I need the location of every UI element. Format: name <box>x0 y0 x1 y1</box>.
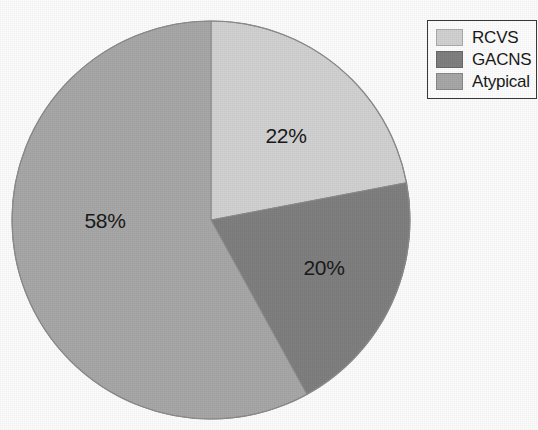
legend-label-rcvs: RCVS <box>472 29 518 46</box>
legend-item-atypical[interactable]: Atypical <box>436 71 536 92</box>
chart-legend: RCVS GACNS Atypical <box>427 20 537 99</box>
slice-label-gacns: 20% <box>303 256 344 280</box>
figure-canvas: 22% 20% 58% RCVS GACNS Atypical <box>0 0 538 430</box>
slice-label-atypical: 58% <box>84 209 125 233</box>
pie-slices <box>12 21 410 419</box>
legend-item-rcvs[interactable]: RCVS <box>436 27 536 48</box>
legend-label-gacns: GACNS <box>472 51 531 68</box>
legend-item-gacns[interactable]: GACNS <box>436 49 536 70</box>
legend-swatch-gacns <box>436 51 463 68</box>
slice-label-rcvs: 22% <box>265 124 306 148</box>
legend-label-atypical: Atypical <box>472 73 530 90</box>
legend-swatch-atypical <box>436 73 463 90</box>
legend-swatch-rcvs <box>436 29 463 46</box>
